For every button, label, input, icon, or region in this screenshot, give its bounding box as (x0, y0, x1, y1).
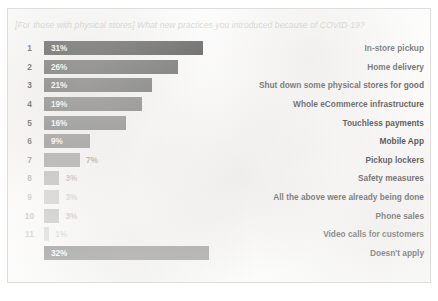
bar-track: 16% (44, 116, 224, 130)
rank-number: 3 (22, 80, 37, 90)
bar-value-label: 7% (86, 155, 98, 164)
chart-row: 93%All the above were already being done (8, 188, 431, 207)
chart-row: 83%Safety measures (8, 169, 431, 188)
bar (44, 41, 203, 55)
category-label: Touchless payments (343, 118, 424, 128)
bar (44, 153, 80, 167)
chart-card: [For those with physical stores] What ne… (7, 8, 431, 283)
bar-track: 21% (44, 78, 224, 92)
bar-value-label: 21% (51, 81, 67, 90)
rank-number: 5 (22, 118, 37, 128)
category-label: Whole eCommerce infrastructure (293, 99, 424, 109)
bar-value-label: 1% (55, 230, 67, 239)
rank-number: 6 (22, 136, 37, 146)
bar-value-label: 9% (51, 137, 63, 146)
category-label: Safety measures (358, 173, 424, 183)
rank-number: 2 (22, 62, 37, 72)
bar-value-label: 31% (51, 44, 67, 53)
bar-track: 3% (44, 190, 224, 204)
bar-track: 3% (44, 171, 224, 185)
rank-number: 11 (22, 229, 37, 239)
category-label: Shut down some physical stores for good (259, 80, 424, 90)
chart-row: 226%Home delivery (8, 58, 431, 77)
bar-value-label: 16% (51, 118, 67, 127)
category-label: Home delivery (367, 62, 424, 72)
rank-number: 10 (22, 211, 37, 221)
bar-track: 19% (44, 97, 224, 111)
chart-row: 103%Phone sales (8, 206, 431, 225)
bar-value-label: 32% (51, 248, 67, 257)
category-label: Pickup lockers (365, 155, 424, 165)
bar-chart-rows: 131%In-store pickup226%Home delivery321%… (8, 39, 431, 262)
chart-title: [For those with physical stores] What ne… (15, 20, 425, 30)
chart-row: 131%In-store pickup (8, 39, 431, 58)
bar-value-label: 26% (51, 62, 67, 71)
category-label: All the above were already being done (273, 192, 424, 202)
chart-row: 111%Video calls for customers (8, 225, 431, 244)
rank-number: 8 (22, 173, 37, 183)
category-label: Video calls for customers (323, 229, 424, 239)
category-label: In-store pickup (365, 43, 424, 53)
bar (44, 227, 49, 241)
rank-number: 1 (22, 43, 37, 53)
bar-value-label: 3% (65, 211, 77, 220)
bar (44, 209, 59, 223)
chart-row: 77%Pickup lockers (8, 151, 431, 170)
bar-value-label: 19% (51, 100, 67, 109)
chart-row: 321%Shut down some physical stores for g… (8, 76, 431, 95)
bar-track: 32% (44, 246, 224, 260)
bar-value-label: 3% (65, 193, 77, 202)
bar-track: 1% (44, 227, 224, 241)
chart-row: 32%Doesn't apply (8, 244, 431, 263)
category-label: Doesn't apply (370, 248, 424, 258)
bar-track: 31% (44, 41, 224, 55)
rank-number: 7 (22, 155, 37, 165)
rank-number: 9 (22, 192, 37, 202)
chart-row: 419%Whole eCommerce infrastructure (8, 95, 431, 114)
bar-track: 3% (44, 209, 224, 223)
chart-row: 69%Mobile App (8, 132, 431, 151)
bar (44, 190, 59, 204)
bar-track: 9% (44, 134, 224, 148)
chart-row: 516%Touchless payments (8, 113, 431, 132)
rank-number: 4 (22, 99, 37, 109)
bar-track: 26% (44, 60, 224, 74)
bar-value-label: 3% (65, 174, 77, 183)
category-label: Mobile App (380, 136, 424, 146)
bar-track: 7% (44, 153, 224, 167)
bar (44, 171, 59, 185)
bar (44, 246, 209, 260)
category-label: Phone sales (376, 211, 424, 221)
